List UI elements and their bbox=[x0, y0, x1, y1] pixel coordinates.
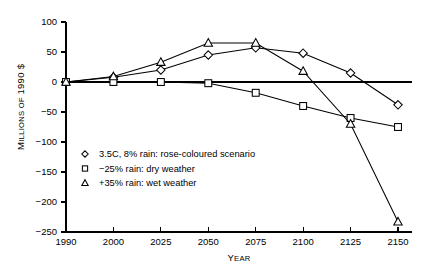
data-point-marker bbox=[395, 124, 402, 131]
legend-label: −25% rain: dry weather bbox=[99, 164, 195, 174]
data-point-marker bbox=[299, 67, 307, 75]
data-point-marker bbox=[300, 103, 307, 110]
x-tick-label: 2000 bbox=[103, 236, 124, 247]
y-tick-label: 100 bbox=[41, 16, 57, 27]
y-tick-label: −150 bbox=[36, 166, 57, 177]
series-line bbox=[66, 43, 398, 222]
data-point-marker bbox=[204, 51, 212, 59]
x-tick-group: 19902000202520502075210021252150 bbox=[55, 227, 408, 247]
y-tick-label: −200 bbox=[36, 196, 57, 207]
x-tick-label: 2125 bbox=[340, 236, 361, 247]
data-point-marker bbox=[252, 89, 259, 96]
y-axis-label-year: 1990 $ bbox=[15, 63, 26, 94]
x-tick-label: 2150 bbox=[387, 236, 408, 247]
data-point-marker bbox=[205, 80, 212, 87]
data-point-marker bbox=[299, 49, 307, 57]
y-tick-group: 100500−50−100−150−200−250 bbox=[36, 16, 66, 237]
svg-text:MILLIONS OF 1990 $: MILLIONS OF 1990 $ bbox=[15, 63, 26, 150]
legend-marker bbox=[82, 151, 88, 157]
x-tick-label: 2050 bbox=[198, 236, 219, 247]
data-point-marker bbox=[394, 101, 402, 109]
y-tick-label: −100 bbox=[36, 136, 57, 147]
data-point-marker bbox=[204, 39, 212, 47]
y-tick-label: −250 bbox=[36, 226, 57, 237]
y-tick-label: 50 bbox=[46, 46, 57, 57]
x-axis-label-rest: EAR bbox=[234, 254, 251, 263]
chart-figure: MILLIONS OF 1990 $ 100500−50−100−150−200… bbox=[0, 0, 434, 268]
x-tick-label: 2025 bbox=[150, 236, 171, 247]
data-point-marker bbox=[394, 217, 402, 225]
legend-label: +35% rain: wet weather bbox=[99, 178, 196, 188]
data-point-marker bbox=[346, 69, 354, 77]
legend-marker bbox=[82, 166, 87, 171]
y-tick-label: 0 bbox=[52, 76, 57, 87]
line-chart: MILLIONS OF 1990 $ 100500−50−100−150−200… bbox=[0, 0, 434, 268]
series-group bbox=[62, 39, 402, 225]
y-axis-label-cap: M bbox=[15, 142, 26, 150]
x-tick-label: 2075 bbox=[245, 236, 266, 247]
x-tick-label: 2100 bbox=[293, 236, 314, 247]
data-point-marker bbox=[157, 79, 164, 86]
y-axis-label-rest: ILLIONS OF bbox=[17, 95, 26, 142]
y-axis-label: MILLIONS OF 1990 $ bbox=[15, 63, 26, 150]
x-axis-label: YEAR bbox=[227, 252, 250, 263]
x-tick-label: 1990 bbox=[55, 236, 76, 247]
svg-text:YEAR: YEAR bbox=[227, 252, 250, 263]
data-point-marker bbox=[157, 66, 165, 74]
y-tick-label: −50 bbox=[41, 106, 57, 117]
chart-legend: 3.5C, 8% rain: rose-coloured scenario−25… bbox=[82, 149, 255, 188]
legend-label: 3.5C, 8% rain: rose-coloured scenario bbox=[99, 149, 255, 159]
data-point-marker bbox=[157, 58, 165, 66]
legend-marker bbox=[82, 180, 88, 186]
data-point-marker bbox=[252, 39, 260, 47]
